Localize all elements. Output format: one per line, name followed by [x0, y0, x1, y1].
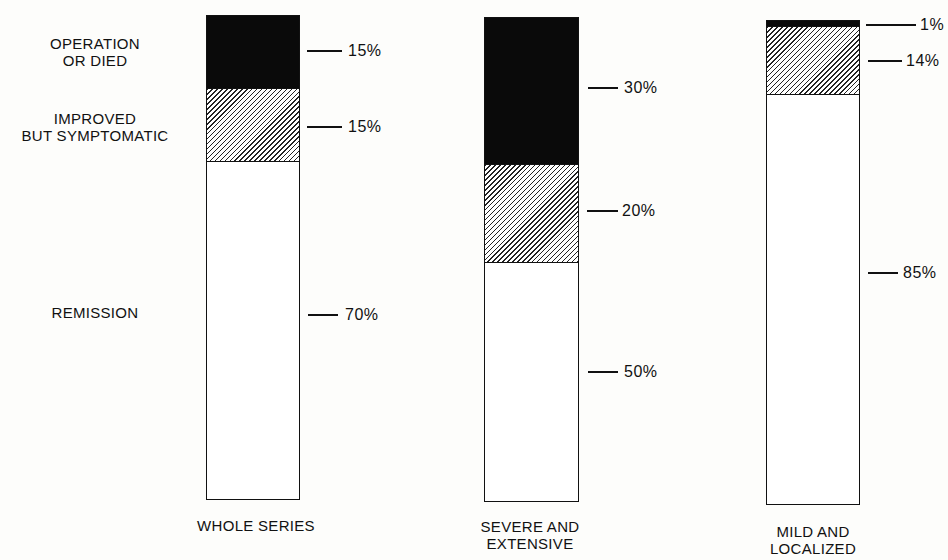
tick [587, 210, 618, 212]
category-label: SEVERE AND EXTENSIVE [450, 518, 610, 552]
value-label: 30% [624, 79, 658, 97]
tick [866, 24, 916, 26]
segment-operation-or-died [485, 18, 578, 166]
segment-improved [767, 26, 859, 95]
legend-remission: REMISSION [20, 304, 170, 321]
legend-label: OPERATION [20, 35, 170, 52]
category-label-line: MILD AND [733, 523, 893, 540]
tick [307, 50, 342, 52]
legend-label: REMISSION [20, 304, 170, 321]
bar-whole-series [206, 15, 300, 500]
category-label: MILD AND LOCALIZED [733, 523, 893, 557]
value-label: 85% [903, 264, 937, 282]
value-label: 70% [345, 306, 379, 324]
value-label: 20% [622, 202, 656, 220]
value-label: 14% [906, 52, 940, 70]
legend-improved: IMPROVED BUT SYMPTOMATIC [0, 110, 190, 144]
legend-label: IMPROVED [0, 110, 190, 127]
value-label: 1% [920, 16, 944, 34]
tick [588, 371, 618, 373]
segment-improved [485, 164, 578, 263]
tick [307, 126, 342, 128]
legend-label: BUT SYMPTOMATIC [0, 127, 190, 144]
tick [308, 314, 338, 316]
legend-label: OR DIED [20, 52, 170, 69]
tick [868, 60, 902, 62]
value-label: 15% [348, 118, 382, 136]
category-label-line: LOCALIZED [733, 540, 893, 557]
category-label: WHOLE SERIES [176, 517, 336, 534]
value-label: 50% [624, 363, 658, 381]
value-label: 15% [348, 42, 382, 60]
bar-severe-extensive [484, 17, 579, 502]
category-label-line: EXTENSIVE [450, 535, 610, 552]
legend-operation-or-died: OPERATION OR DIED [20, 35, 170, 69]
bar-mild-localized [766, 20, 860, 505]
segment-improved [207, 88, 299, 162]
tick [588, 87, 618, 89]
tick [868, 272, 898, 274]
category-label-line: SEVERE AND [450, 518, 610, 535]
segment-operation-or-died [207, 16, 299, 89]
